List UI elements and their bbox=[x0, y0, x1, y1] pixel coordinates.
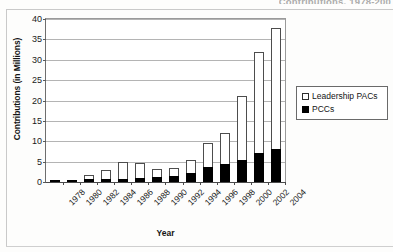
x-axis-tick-label: 1978 bbox=[66, 187, 86, 207]
bar-group bbox=[166, 19, 183, 182]
y-axis-tick-label: 5 bbox=[37, 157, 42, 167]
x-axis-tick-label: 1998 bbox=[237, 187, 257, 207]
bar-segment-pccs bbox=[84, 179, 94, 182]
x-axis-tick-mark bbox=[131, 182, 132, 185]
x-axis-tick-label: 2002 bbox=[271, 187, 291, 207]
y-axis-title: Contributions (in Millions) bbox=[12, 14, 22, 164]
bar-segment-pccs bbox=[118, 179, 128, 182]
bar-segment-pccs bbox=[101, 179, 111, 182]
bar-group bbox=[200, 19, 217, 182]
x-axis-tick-mark bbox=[80, 182, 81, 185]
x-axis-tick-label: 1994 bbox=[203, 187, 223, 207]
y-axis-tick-label: 25 bbox=[32, 75, 42, 85]
bar-segment-leadership-pacs bbox=[101, 170, 111, 179]
bar-group bbox=[97, 19, 114, 182]
legend-label: Leadership PACs bbox=[312, 91, 378, 102]
bar-group bbox=[183, 19, 200, 182]
bar-segment-leadership-pacs bbox=[152, 169, 162, 176]
stacked-bar bbox=[254, 52, 264, 182]
bar-group bbox=[234, 19, 251, 182]
x-axis-tick-label: 2004 bbox=[288, 187, 308, 207]
bar-group bbox=[63, 19, 80, 182]
stacked-bar bbox=[135, 163, 145, 182]
stacked-bar bbox=[67, 180, 77, 182]
legend-label: PCCs bbox=[312, 104, 334, 115]
x-axis-tick-mark bbox=[63, 182, 64, 185]
y-axis-tick-label: 20 bbox=[32, 96, 42, 106]
bar-series-layer bbox=[46, 19, 285, 182]
bar-group bbox=[148, 19, 165, 182]
bar-group bbox=[80, 19, 97, 182]
x-axis-tick-label: 1984 bbox=[117, 187, 137, 207]
bar-segment-leadership-pacs bbox=[135, 163, 145, 178]
x-axis-tick-label: 1996 bbox=[220, 187, 240, 207]
y-axis-tick-label: 35 bbox=[32, 34, 42, 44]
bar-chart: Contributions (in Millions) 051015202530… bbox=[0, 10, 393, 246]
bar-segment-leadership-pacs bbox=[203, 143, 213, 167]
stacked-bar bbox=[237, 96, 247, 182]
x-axis-tick-label: 1980 bbox=[83, 187, 103, 207]
stacked-bar bbox=[186, 160, 196, 182]
stacked-bar bbox=[50, 180, 60, 182]
x-axis-tick-mark bbox=[285, 182, 286, 185]
bar-group bbox=[46, 19, 63, 182]
x-axis-tick-label: 2000 bbox=[254, 187, 274, 207]
x-axis-tick-mark bbox=[251, 182, 252, 185]
bar-segment-pccs bbox=[271, 149, 281, 182]
stacked-bar bbox=[203, 143, 213, 183]
chart-legend: Leadership PACs PCCs bbox=[296, 86, 388, 120]
bar-segment-leadership-pacs bbox=[271, 28, 281, 150]
stacked-bar bbox=[220, 133, 230, 182]
y-axis-tick-label: 10 bbox=[32, 136, 42, 146]
y-axis-tick-label: 0 bbox=[37, 177, 42, 187]
bar-segment-pccs bbox=[237, 160, 247, 182]
bar-segment-leadership-pacs bbox=[220, 133, 230, 165]
x-axis-tick-label: 1990 bbox=[168, 187, 188, 207]
page-bottom-rule bbox=[6, 246, 393, 247]
bar-segment-leadership-pacs bbox=[118, 162, 128, 178]
x-axis-tick-mark bbox=[234, 182, 235, 185]
legend-item-leadership-pacs: Leadership PACs bbox=[302, 91, 383, 102]
y-axis-tick-mark bbox=[43, 182, 46, 183]
open-square-icon bbox=[302, 93, 309, 100]
stacked-bar bbox=[84, 175, 94, 182]
bar-segment-pccs bbox=[135, 178, 145, 182]
x-axis-tick-mark bbox=[148, 182, 149, 185]
bar-group bbox=[131, 19, 148, 182]
bar-group bbox=[114, 19, 131, 182]
y-axis-tick-label: 40 bbox=[32, 14, 42, 24]
bar-segment-pccs bbox=[203, 167, 213, 182]
x-axis-tick-mark bbox=[268, 182, 269, 185]
y-axis-tick-label: 30 bbox=[32, 55, 42, 65]
bar-segment-pccs bbox=[254, 153, 264, 182]
stacked-bar bbox=[271, 28, 281, 182]
bar-group bbox=[217, 19, 234, 182]
bar-segment-pccs bbox=[186, 173, 196, 182]
bar-segment-pccs bbox=[67, 180, 77, 182]
bar-segment-pccs bbox=[220, 164, 230, 182]
bar-segment-pccs bbox=[169, 176, 179, 182]
bar-segment-pccs bbox=[152, 177, 162, 182]
bar-segment-pccs bbox=[50, 180, 60, 182]
x-axis-tick-mark bbox=[114, 182, 115, 185]
stacked-bar bbox=[169, 168, 179, 182]
stacked-bar bbox=[152, 169, 162, 182]
bar-group bbox=[251, 19, 268, 182]
plot-area: 0510152025303540 bbox=[45, 18, 286, 183]
x-axis-tick-mark bbox=[183, 182, 184, 185]
x-axis-title: Year bbox=[45, 228, 286, 238]
x-axis-tick-label: 1992 bbox=[186, 187, 206, 207]
x-axis-tick-label: 1988 bbox=[151, 187, 171, 207]
bar-segment-leadership-pacs bbox=[237, 96, 247, 160]
x-axis-tick-label: 1986 bbox=[134, 187, 154, 207]
filled-square-icon bbox=[302, 106, 309, 113]
x-axis-tick-mark bbox=[200, 182, 201, 185]
x-axis-tick-mark bbox=[165, 182, 166, 185]
legend-item-pccs: PCCs bbox=[302, 104, 383, 115]
x-axis-tick-mark bbox=[97, 182, 98, 185]
bar-segment-leadership-pacs bbox=[254, 52, 264, 153]
stacked-bar bbox=[101, 170, 111, 182]
bar-segment-leadership-pacs bbox=[186, 160, 196, 173]
x-axis-tick-mark bbox=[217, 182, 218, 185]
cropped-header-text: Contributions, 1978-200 bbox=[279, 0, 391, 4]
